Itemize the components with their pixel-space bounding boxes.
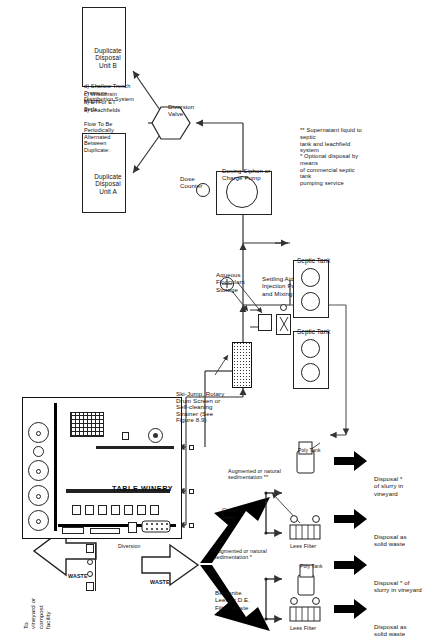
waste-arrow-left-label: WASTE xyxy=(150,579,170,586)
lees-filter-2-label: Lees Filter xyxy=(290,543,316,550)
solids-roller-1 xyxy=(87,571,93,577)
bus-valve-3 xyxy=(189,445,194,450)
dose-counter-label: Dose Counter xyxy=(180,175,210,190)
septic-tank-2-label: Septic Tank xyxy=(297,328,331,335)
to-vineyard-label: To vineyard or compost facility xyxy=(22,569,52,629)
footnote-1: * Optional disposal by means of commerci… xyxy=(300,153,366,187)
bus-valve-1 xyxy=(189,523,194,528)
settling-aid-tank xyxy=(258,314,272,331)
disposal-arrow-3 xyxy=(334,507,368,531)
disposal-arrow-2 xyxy=(334,553,368,577)
poly-tank-3-label: Poly Tank xyxy=(298,447,321,454)
winery-unit-5 xyxy=(124,505,133,515)
waste-arrow-top-label: WASTE xyxy=(68,573,88,580)
duplicate-note-heading: Flow To Be Periodically Alternated Betwe… xyxy=(84,121,126,153)
crusher-feed xyxy=(122,432,129,440)
footnote-2: ** Supernatant liquid to septic tank and… xyxy=(300,127,366,154)
winery-unit-1 xyxy=(72,505,81,515)
winery-column xyxy=(90,528,120,534)
septic-tank-1-port-1 xyxy=(301,292,320,311)
gross-lees-label: Gross Lees xyxy=(222,506,262,521)
flocculant-label: Aqueous Flocculant Storage xyxy=(216,271,260,293)
bottling-line-icon xyxy=(140,517,174,535)
disposal-label-1: Disposal as solid waste xyxy=(374,623,422,638)
winery-unit-7 xyxy=(150,505,159,515)
winery-tank-4-hatch xyxy=(36,431,41,436)
winery-case-storage xyxy=(70,412,104,437)
disposal-unit-a-label: Duplicate Disposal Unit A xyxy=(90,173,126,195)
disposal-label-4: Disposal * of slurry in vineyard xyxy=(374,475,420,497)
septic-tank-2-port-2 xyxy=(301,339,320,358)
winery-tank-small xyxy=(33,446,44,457)
winery-tank-3-hatch xyxy=(36,469,41,474)
screen-label: Ski-Jump, Rotary Drum Screen or Self-cle… xyxy=(176,391,238,424)
winery-tank-2-hatch xyxy=(36,494,41,499)
winery-tank-1-hatch xyxy=(36,519,41,524)
septic-tank-2-port-1 xyxy=(301,363,320,382)
poly-tank-1-label: Poly Tank xyxy=(300,563,323,570)
crusher-hub xyxy=(153,433,158,438)
diversion-label: Diversion xyxy=(118,543,141,550)
poly-tank-3-icon xyxy=(292,435,322,475)
ski-jump-screen xyxy=(232,342,252,388)
building-title: TABLE WINERY xyxy=(112,485,173,492)
solids-bin-2 xyxy=(86,544,94,553)
winery-header-bus xyxy=(54,403,57,531)
septic-tank-1-label: Septic Tank xyxy=(297,257,331,264)
filter-feed-brackets xyxy=(262,425,292,625)
disposal-label-3: Disposal as solid waste xyxy=(374,533,422,548)
winery-unit-3 xyxy=(98,505,107,515)
disposal-label-2: Disposal * of slurry in vineyard xyxy=(374,579,426,594)
winery-unit-2 xyxy=(85,505,94,515)
septic-tank-1-port-2 xyxy=(301,268,320,287)
diversion-valve-label: Diversion Valve xyxy=(168,103,198,118)
winery-press xyxy=(62,527,84,534)
disposal-arrow-4 xyxy=(334,449,368,473)
disposal-unit-b-label: Duplicate Disposal Unit B xyxy=(90,47,126,69)
dosing-label: Dosing Siphon or Charge Pump xyxy=(222,167,278,182)
lees-filter-1-label: Lees Filter xyxy=(290,625,316,632)
solids-roller-2 xyxy=(87,559,93,565)
duplicate-note-item-3: d) Shallow Trench Pressure Distribution … xyxy=(84,83,142,103)
solids-bin-1 xyxy=(86,582,94,591)
bus-valve-2 xyxy=(189,489,194,494)
settling-aid-pump-glyph xyxy=(276,309,294,335)
winery-rack-line-3 xyxy=(96,446,174,449)
winery-unit-6 xyxy=(137,505,146,515)
conveyor-belt xyxy=(95,543,96,591)
lees-filter-2-icon xyxy=(286,501,326,541)
bottling-box xyxy=(128,522,137,533)
winery-unit-4 xyxy=(111,505,120,515)
disposal-arrow-1 xyxy=(334,597,368,621)
